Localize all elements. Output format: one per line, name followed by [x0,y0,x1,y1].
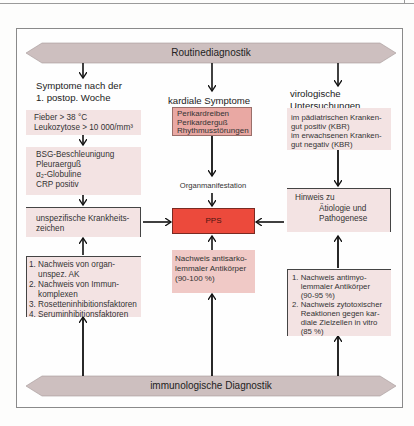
etiology-pathogenesis-box: Hinweis zu Ätiologie und Pathogenese [287,188,391,232]
box-line: Ätiologie und [295,204,390,215]
box-line: 4. Seruminhibitionsfaktoren [29,310,141,320]
box-line: Pleuraerguß [36,160,141,170]
box-line: CRP positiv [36,180,141,190]
box-title: Hinweis zu [295,193,390,204]
box-line: 1. Nachweis von organ- [29,260,141,270]
box-line: 1. Nachweis antimyo- [292,273,391,282]
virological-results-box: im pädiatrischen Kranken- gut positiv (K… [287,108,391,150]
box-line: unspezifische Krankheits- [36,214,140,224]
heading-line: virologische [290,88,360,100]
top-banner-label: Routinediagnostik [42,43,380,63]
box-line: Rhythmusstörungen [177,127,251,136]
nonspecific-signs-box: unspezifische Krankheits- zeichen [26,207,141,237]
box-line: (85 %) [292,327,391,336]
box-line: Leukozytose > 10 000/mm³ [34,123,141,133]
box-line: lemmaler Antikörper [292,282,391,291]
cardiac-symptoms-box: Perikardreiben Perikarderguß Rhythmusstö… [172,107,252,136]
pps-box: PPS [172,208,255,234]
box-line: Pathogenese [295,214,390,225]
box-line: Nachweis antisarko- [175,254,255,264]
box-line: Fieber > 38 °C [34,113,141,123]
box-line: unspez. AK [29,270,141,280]
heading-line: 1. postop. Woche [36,92,122,104]
box-line: 2. Nachweis zytotoxischer [292,300,391,309]
organ-manifestation-label: Organmanifestation [170,181,256,190]
box-line: lemmaler Antikörper [175,264,255,274]
box-line: gut negativ (KBR) [291,140,391,149]
box-line: α₂-Globuline [36,170,141,180]
box-line: 2. Nachweis von Immun- [29,280,141,290]
box-line: zeichen [36,224,140,234]
center-column-heading: kardiale Symptome [168,95,250,107]
box-line: (90-95 %) [292,291,391,300]
immunological-tests-right-box: 1. Nachweis antimyo- lemmaler Antikörper… [287,269,391,336]
immunological-tests-left-box: 1. Nachweis von organ- unspez. AK 2. Nac… [26,256,141,317]
fever-leukocytosis-box: Fieber > 38 °C Leukozytose > 10 000/mm³ [26,110,141,135]
box-line: diale Zielzellen in vitro [292,318,391,327]
lab-findings-box: BSG-Beschleunigung Pleuraerguß α₂-Globul… [26,147,141,195]
box-line: 3. Rosetteninhibitionsfaktoren [29,300,141,310]
box-line: im erwachsenen Kranken- [291,131,391,140]
left-column-heading: Symptome nach der 1. postop. Woche [36,80,122,104]
box-line: gut positiv (KBR) [291,122,391,131]
box-line: komplexen [29,290,141,300]
bottom-banner-label: immunologische Diagnostik [42,376,380,396]
antisarcolemmal-antibody-box: Nachweis antisarko- lemmaler Antikörper … [172,250,255,293]
box-line: (90-100 %) [175,274,255,284]
box-line: BSG-Beschleunigung [36,150,141,160]
heading-line: Symptome nach der [36,80,122,92]
box-line: Reaktionen gegen kar- [292,309,391,318]
box-line: im pädiatrischen Kranken- [291,113,391,122]
